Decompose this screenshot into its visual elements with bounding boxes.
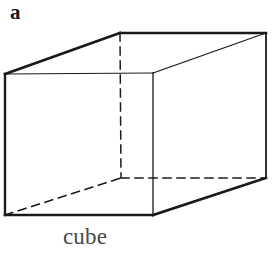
cube-edge-front-top bbox=[5, 73, 153, 74]
cube-diagram bbox=[0, 0, 273, 258]
cube-edge-group bbox=[5, 33, 266, 215]
cube-edge-bottom-right-receding bbox=[153, 178, 266, 215]
cube-edge-top-right-receding bbox=[153, 33, 266, 73]
cube-edge-hidden-bottom-left bbox=[5, 178, 121, 215]
cube-edge-hidden-back-vertical bbox=[120, 33, 121, 178]
figure-container: a cube bbox=[0, 0, 273, 258]
figure-caption: cube bbox=[0, 225, 170, 249]
cube-edge-top-left-receding bbox=[5, 33, 120, 74]
